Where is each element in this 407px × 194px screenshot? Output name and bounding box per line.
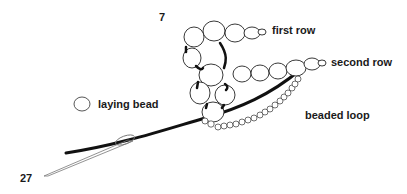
- beading-diagram: 7 first row second row laying bead beade…: [0, 0, 407, 194]
- laying-bead-label: laying bead: [98, 99, 159, 110]
- beaded-loop-label: beaded loop: [305, 110, 370, 121]
- laying-bead-icon: [74, 97, 90, 111]
- second-row-beads: [233, 58, 326, 82]
- diagram-illustration: [0, 0, 407, 194]
- first-row-label: first row: [272, 25, 315, 36]
- figure-number-top: 7: [159, 12, 165, 23]
- middle-beads: [190, 64, 235, 122]
- figure-number-bottom: 27: [20, 173, 32, 184]
- second-row-label: second row: [331, 57, 392, 68]
- needle-icon: [44, 133, 136, 176]
